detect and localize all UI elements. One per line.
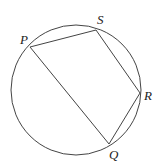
label-Q: Q xyxy=(109,147,119,162)
segment-SR xyxy=(96,30,140,93)
circle xyxy=(11,25,141,155)
label-P: P xyxy=(19,32,28,47)
segment-QP xyxy=(30,47,109,144)
segment-RQ xyxy=(109,93,140,144)
label-R: R xyxy=(143,88,152,103)
diagram-canvas: P S R Q xyxy=(0,0,161,165)
segment-PS xyxy=(30,30,96,47)
label-S: S xyxy=(97,12,104,27)
